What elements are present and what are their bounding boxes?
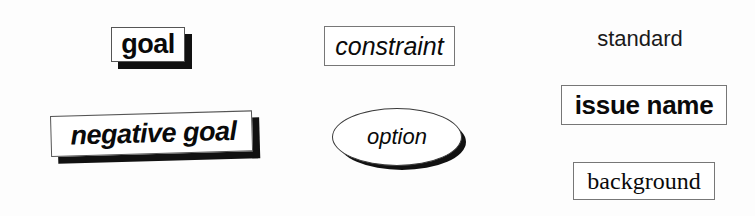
node-goal-label: goal: [121, 31, 175, 58]
node-issue-name-label: issue name: [575, 92, 714, 118]
node-goal[interactable]: goal: [111, 27, 185, 62]
node-background-label: background: [587, 169, 700, 193]
node-background[interactable]: background: [573, 162, 715, 200]
node-option-wrapper: option: [330, 108, 470, 170]
node-negative-goal-wrapper: negative goal: [50, 110, 253, 157]
node-option-label: option: [367, 124, 427, 150]
node-option[interactable]: option: [332, 108, 462, 166]
node-standard[interactable]: standard: [580, 24, 700, 54]
node-negative-goal[interactable]: negative goal: [50, 110, 253, 157]
node-issue-name[interactable]: issue name: [561, 85, 727, 125]
node-constraint[interactable]: constraint: [324, 26, 455, 66]
notation-legend-canvas: goal negative goal constraint option sta…: [0, 0, 755, 216]
node-negative-goal-label: negative goal: [70, 118, 237, 150]
goal-shadow-bottom: [118, 62, 192, 69]
node-standard-label: standard: [597, 28, 683, 50]
node-constraint-label: constraint: [335, 34, 443, 59]
